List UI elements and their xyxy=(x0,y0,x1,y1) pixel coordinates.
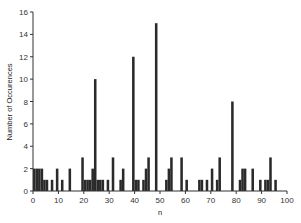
histogram-bar xyxy=(180,157,183,191)
histogram-bar xyxy=(107,180,110,191)
histogram-bar xyxy=(91,169,94,191)
histogram-bar xyxy=(86,180,89,191)
x-tick-label: 30 xyxy=(105,196,114,205)
x-tick-label: 100 xyxy=(280,196,294,205)
histogram-bar xyxy=(142,180,145,191)
histogram-bar xyxy=(69,169,72,191)
histogram-bar xyxy=(94,79,97,191)
x-tick-label: 0 xyxy=(31,196,36,205)
histogram-bar xyxy=(198,180,201,191)
histogram-bar xyxy=(241,169,244,191)
histogram-bar xyxy=(168,169,171,191)
histogram-bar xyxy=(206,180,209,191)
histogram-bar xyxy=(185,180,188,191)
histogram-bar xyxy=(41,169,44,191)
histogram-bar xyxy=(145,169,148,191)
histogram-bar xyxy=(274,180,277,191)
histogram-bar xyxy=(56,169,59,191)
histogram-bar xyxy=(84,180,87,191)
x-tick-label: 50 xyxy=(156,196,165,205)
histogram-bar xyxy=(61,180,64,191)
histogram-bar xyxy=(102,180,105,191)
y-tick-label: 6 xyxy=(24,120,29,129)
x-tick-label: 80 xyxy=(232,196,241,205)
histogram-bar xyxy=(97,180,100,191)
x-tick-label: 60 xyxy=(181,196,190,205)
histogram-bar xyxy=(132,57,135,191)
x-tick-label: 90 xyxy=(257,196,266,205)
histogram-bar xyxy=(122,169,125,191)
histogram-bar xyxy=(216,180,219,191)
y-tick-label: 0 xyxy=(24,187,29,196)
histogram-bar xyxy=(119,180,122,191)
histogram-bar xyxy=(201,180,204,191)
histogram-bar xyxy=(165,180,168,191)
x-tick-label: 20 xyxy=(79,196,88,205)
histogram-bar xyxy=(43,180,46,191)
histogram-bar xyxy=(38,169,41,191)
histogram-bar xyxy=(239,180,242,191)
histogram-bar xyxy=(170,157,173,191)
y-tick-label: 4 xyxy=(24,142,29,151)
histogram-bars xyxy=(33,23,277,191)
x-tick-label: 40 xyxy=(130,196,139,205)
y-tick-label: 16 xyxy=(19,8,28,17)
histogram-bar xyxy=(251,169,254,191)
histogram-bar xyxy=(36,169,39,191)
histogram-bar xyxy=(155,23,158,191)
y-tick-label: 8 xyxy=(24,98,29,107)
histogram-bar xyxy=(46,180,49,191)
histogram-bar xyxy=(112,157,115,191)
histogram-bar xyxy=(267,180,270,191)
x-tick-label: 10 xyxy=(54,196,63,205)
y-tick-label: 2 xyxy=(24,165,29,174)
histogram-bar xyxy=(81,157,84,191)
histogram-bar xyxy=(269,157,272,191)
histogram-bar xyxy=(211,169,214,191)
x-tick-label: 70 xyxy=(206,196,215,205)
histogram-bar xyxy=(244,169,247,191)
histogram-bar xyxy=(259,180,262,191)
histogram-bar xyxy=(99,180,102,191)
histogram-chart: 01020304050607080901000246810121416 n Nu… xyxy=(0,0,301,223)
histogram-bar xyxy=(218,157,221,191)
histogram-bar xyxy=(137,180,140,191)
histogram-bar xyxy=(89,180,92,191)
y-axis-title: Number of Occurences xyxy=(5,63,14,140)
histogram-bar xyxy=(147,157,150,191)
histogram-bar xyxy=(135,180,138,191)
y-tick-label: 12 xyxy=(19,53,28,62)
histogram-bar xyxy=(264,180,267,191)
y-tick-label: 14 xyxy=(19,30,28,39)
histogram-bar xyxy=(51,180,54,191)
y-tick-label: 10 xyxy=(19,75,28,84)
x-axis-title: n xyxy=(158,208,162,217)
histogram-bar xyxy=(231,102,234,192)
